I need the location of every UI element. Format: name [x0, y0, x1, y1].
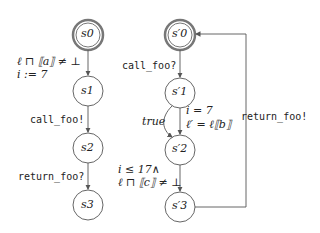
- transition-guard-s2p-s3p-line1: i ≤ 17∧: [118, 164, 160, 176]
- state-label-s1: s1: [81, 85, 94, 97]
- automata-diagram: s0 s1 s2 s3 ℓ ⊓ ⟦a⟧ ≠ ⊥ i := 7 call_foo!…: [0, 0, 320, 233]
- state-label-s3-prime: s′3: [172, 200, 187, 212]
- state-label-s2-prime: s′2: [172, 143, 187, 155]
- state-label-s1-prime: s′1: [172, 86, 187, 98]
- transition-label-s0p-s1p: call_foo?: [122, 60, 176, 72]
- transition-label-return-foo: return_foo!: [241, 111, 307, 123]
- transition-label-s1-s2: call_foo!: [30, 114, 84, 126]
- transition-guard-s1p-s2p: i = 7: [186, 105, 213, 117]
- transition-update-s0-s1: i := 7: [17, 69, 47, 81]
- state-label-s0: s0: [81, 28, 94, 40]
- transition-guard-s2p-s3p-line2: ℓ ⊓ ⟦c⟧ ≠ ⊥: [118, 177, 182, 189]
- transition-update-s1p-s2p: ℓ′ = ℓ⟦b⟧: [186, 119, 231, 131]
- state-label-s2: s2: [81, 142, 94, 154]
- transition-label-s2-s3: return_foo?: [18, 171, 84, 183]
- state-label-s0-prime: s′0: [172, 28, 187, 40]
- transition-guard-s0-s1: ℓ ⊓ ⟦a⟧ ≠ ⊥: [17, 56, 81, 68]
- transition-label-true: true: [142, 116, 165, 128]
- state-label-s3: s3: [81, 199, 94, 211]
